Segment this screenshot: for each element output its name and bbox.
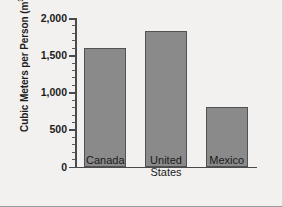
y-tick-label: 0 <box>61 161 67 173</box>
plot-area: 05001,0001,5002,000 <box>75 18 257 168</box>
y-tick-minor <box>72 115 76 116</box>
y-tick-major <box>69 129 75 131</box>
y-tick-major <box>69 167 75 169</box>
y-tick-label: 500 <box>49 123 67 135</box>
y-axis-title: Cubic Meters per Person (m3) <box>19 0 30 144</box>
y-tick-minor <box>72 144 76 145</box>
y-tick-label: 1,000 <box>41 86 67 98</box>
y-tick-minor <box>72 40 76 41</box>
bar <box>84 48 126 167</box>
y-tick-major <box>69 92 75 94</box>
y-tick-label: 1,500 <box>41 49 67 61</box>
bar <box>145 31 187 167</box>
x-axis-category-label: Mexico <box>196 154 257 166</box>
y-tick-minor <box>72 137 76 138</box>
y-tick-minor <box>72 107 76 108</box>
y-tick-minor <box>72 48 76 49</box>
y-tick-minor <box>72 25 76 26</box>
y-tick-major <box>69 55 75 57</box>
bar-chart-figure: Cubic Meters per Person (m3) 05001,0001,… <box>0 0 283 207</box>
y-tick-minor <box>72 85 76 86</box>
y-tick-minor <box>72 77 76 78</box>
y-tick-minor <box>72 100 76 101</box>
y-axis-title-text: Cubic Meters per Person (m <box>19 2 30 132</box>
y-tick-major <box>69 18 75 20</box>
y-tick-minor <box>72 152 76 153</box>
y-tick-minor <box>72 122 76 123</box>
y-tick-label: 2,000 <box>41 12 67 24</box>
y-axis-title-exponent: 3 <box>17 0 24 2</box>
y-tick-minor <box>72 70 76 71</box>
y-tick-minor <box>72 63 76 64</box>
x-axis-category-label: Canada <box>75 154 136 166</box>
y-axis-line <box>75 18 77 168</box>
x-axis-category-label: United States <box>136 154 197 178</box>
y-tick-minor <box>72 33 76 34</box>
